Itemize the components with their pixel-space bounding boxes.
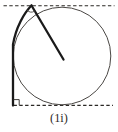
radius-line: [32, 6, 64, 60]
geometry-figure: (1i): [0, 0, 118, 132]
figure-canvas: (1i): [0, 0, 118, 132]
figure-caption: (1i): [50, 111, 68, 125]
